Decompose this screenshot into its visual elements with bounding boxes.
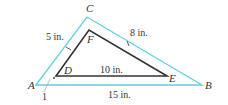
- measure-8in: 8 in.: [130, 27, 148, 38]
- vertex-label-c: C: [86, 2, 94, 14]
- vertex-label-a: A: [27, 79, 35, 91]
- vertex-label-d: D: [63, 64, 72, 76]
- nested-triangles-diagram: C F D E B A 5 in. 8 in. 10 in. 15 in. 1: [0, 0, 228, 105]
- vertex-label-e: E: [168, 72, 176, 84]
- measure-5in: 5 in.: [46, 31, 64, 42]
- measure-10in: 10 in.: [100, 64, 123, 75]
- gap-tick-ac: [66, 47, 71, 50]
- measure-gap-1: 1: [42, 91, 47, 102]
- gap-dot-a: [53, 77, 55, 79]
- vertex-label-b: B: [205, 79, 212, 91]
- measure-15in: 15 in.: [108, 89, 131, 100]
- vertex-label-f: F: [86, 33, 94, 45]
